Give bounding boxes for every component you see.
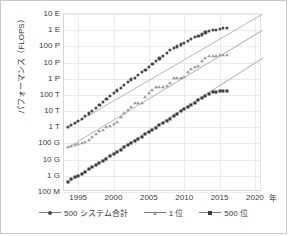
legend-item[interactable]: 500 位 — [199, 207, 248, 218]
data-point-marker — [225, 89, 228, 92]
x-axis-unit-label: 年 — [269, 195, 277, 203]
y-tick-label: 10 P — [44, 59, 60, 67]
plot-area: 100 M1 G10 G100 G1 T10 T100 T1 P10 P100 … — [63, 13, 261, 191]
data-point-marker — [98, 162, 101, 165]
chart-legend: 500 システム合計1 位500 位 — [1, 207, 286, 218]
data-point-marker — [158, 124, 161, 127]
legend-item[interactable]: 500 システム合計 — [39, 207, 128, 218]
y-tick-label: 100 M — [38, 188, 60, 196]
data-point-marker — [108, 155, 111, 158]
legend-marker-diamond-icon — [39, 209, 61, 217]
y-tick-label: 100 T — [40, 91, 60, 99]
data-point-marker — [197, 99, 200, 102]
y-tick-label: 10 E — [44, 10, 60, 18]
y-tick-label: 100 G — [38, 139, 60, 147]
x-tick-label: 2010 — [175, 194, 193, 202]
y-tick-label: 1 P — [48, 75, 60, 83]
data-point-marker — [73, 176, 76, 179]
x-tick-label: 1995 — [69, 194, 87, 202]
legend-label: 500 システム合計 — [64, 207, 128, 218]
legend-marker-triangle-icon — [144, 209, 166, 217]
data-point-marker — [207, 92, 210, 95]
x-tick-label: 2020 — [246, 194, 264, 202]
y-tick-label: 10 T — [44, 107, 60, 115]
y-tick-label: 1 E — [48, 26, 60, 34]
y-axis-title: パフォーマンス（FLOPS） — [15, 10, 26, 120]
x-tick-label: 2000 — [105, 194, 123, 202]
legend-label: 1 位 — [169, 207, 184, 218]
data-point-marker — [222, 90, 225, 93]
legend-item[interactable]: 1 位 — [144, 207, 184, 218]
y-tick-label: 100 P — [39, 42, 60, 50]
y-tick-label: 1 G — [47, 172, 60, 180]
gridline-horizontal — [64, 192, 260, 193]
y-tick-label: 10 G — [43, 156, 60, 164]
legend-label: 500 位 — [224, 207, 248, 218]
legend-marker-square-icon — [199, 209, 221, 217]
data-point-marker — [147, 131, 150, 134]
data-point-marker — [183, 108, 186, 111]
x-tick-label: 2005 — [140, 194, 158, 202]
data-point-marker — [84, 170, 87, 173]
data-point-marker — [123, 146, 126, 149]
y-tick-label: 1 T — [49, 123, 60, 131]
data-point-marker — [169, 117, 172, 120]
data-series — [64, 14, 260, 190]
data-point-marker — [133, 140, 136, 143]
data-point-marker — [66, 180, 69, 183]
data-point-marker — [172, 114, 175, 117]
chart-figure: パフォーマンス（FLOPS） 100 M1 G10 G100 G1 T10 T1… — [0, 0, 287, 234]
x-tick-label: 2015 — [211, 194, 229, 202]
